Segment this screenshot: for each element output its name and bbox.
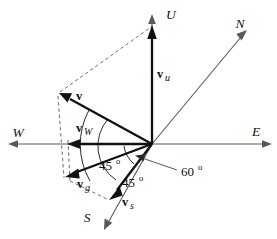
- angle-label-45-upper-value: 45: [99, 158, 112, 173]
- up-axis-arrowhead: [148, 14, 156, 24]
- west-component-vector-label-text: v: [76, 121, 83, 135]
- west-component-vector-label-subscript: W: [84, 126, 94, 137]
- north-axis-label: N: [234, 16, 245, 31]
- east-axis-label: E: [251, 124, 261, 139]
- up-component-vector-label: v u: [157, 67, 170, 83]
- ground-component-vector-label: v g: [77, 177, 90, 193]
- south-component-vector-label: v s: [122, 195, 134, 211]
- east-axis: [152, 140, 272, 148]
- south-component-vector-arrowhead: [109, 186, 123, 200]
- west-component-vector-arrowhead: [67, 139, 80, 149]
- west-component-vector: [67, 139, 152, 149]
- angle-60-leader-line: [142, 158, 177, 170]
- south-axis-arrowhead: [104, 219, 112, 231]
- velocity-vector: [59, 93, 152, 144]
- up-axis-label: U: [166, 7, 177, 22]
- angle-label-45-lower: 45 o: [122, 173, 143, 190]
- north-axis-arrowhead: [236, 30, 247, 41]
- angle-label-60: 60 o: [181, 162, 202, 179]
- up-component-vector-label-subscript: u: [165, 72, 170, 83]
- north-axis: [152, 30, 247, 144]
- south-component-vector-label-subscript: s: [130, 200, 134, 211]
- dashed-v-to-vu-tip: [60, 27, 151, 92]
- east-axis-arrowhead: [262, 140, 272, 148]
- west-axis-arrowhead: [8, 140, 18, 148]
- angle-label-60-value: 60: [181, 164, 194, 179]
- dashed-v-to-vg-tip: [58, 96, 64, 178]
- north-axis-line: [152, 37, 241, 144]
- velocity-vector-label-text: v: [76, 89, 83, 103]
- angle-label-45-lower-degree: o: [139, 173, 143, 183]
- ground-component-vector-label-subscript: g: [85, 182, 90, 193]
- angle-label-45-lower-value: 45: [122, 175, 135, 190]
- west-axis-label: W: [12, 125, 25, 140]
- up-component-vector-arrowhead: [147, 25, 157, 39]
- angle-label-45-upper: 45 o: [99, 156, 120, 173]
- west-component-vector-label: v W: [76, 121, 94, 137]
- angle-label-45-upper-degree: o: [116, 156, 120, 166]
- up-component-vector-label-text: v: [157, 67, 164, 81]
- axis-labels-group: U N E W S: [12, 7, 261, 225]
- axes-group: [8, 14, 272, 230]
- velocity-vector-line: [70, 99, 152, 144]
- velocity-vector-arrowhead: [59, 93, 72, 103]
- ground-component-vector-label-text: v: [77, 177, 84, 191]
- vector-diagram-canvas: U N E W S v v u v W v g v: [0, 0, 277, 239]
- vector-diagram-figure: U N E W S v v u v W v g v: [0, 0, 277, 239]
- south-component-vector-label-text: v: [122, 195, 129, 209]
- south-axis-label: S: [84, 210, 91, 225]
- up-component-vector: [147, 25, 157, 144]
- angle-label-60-degree: o: [198, 162, 202, 172]
- velocity-vector-label: v: [76, 89, 83, 103]
